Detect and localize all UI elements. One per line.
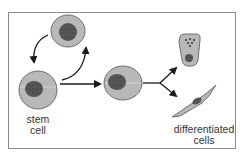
progenitor-cell (104, 66, 142, 100)
stem-cell (19, 71, 57, 109)
stem-cell-label: stem cell (16, 114, 60, 136)
self-renewed-cell (51, 15, 85, 47)
differentiated-cells-label: differentiated cells (166, 124, 242, 146)
branch-up-arrow (160, 68, 176, 83)
differentiated-cells-label-line2: cells (166, 135, 242, 146)
branch-down-arrow (160, 83, 176, 96)
renewal-arrow-right (62, 48, 86, 80)
stem-cell-label-line2: cell (16, 125, 60, 136)
renewal-arrow-left (34, 35, 48, 62)
secretory-cell (179, 34, 200, 66)
spindle-cell (172, 85, 216, 117)
